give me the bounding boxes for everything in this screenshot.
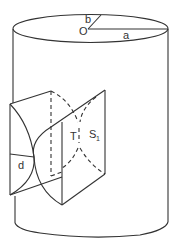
left-arc-upper	[10, 104, 34, 195]
front-arc	[33, 127, 62, 205]
label-T: T	[70, 130, 77, 142]
hidden-bottom-back-edge	[51, 172, 62, 176]
label-O: O	[79, 25, 88, 37]
hidden-lower-arc-left	[62, 148, 78, 168]
depth-d-line	[10, 154, 34, 157]
hidden-upper-arc-right	[80, 97, 96, 122]
prism-top-left-edge	[10, 91, 51, 104]
prism-bottom-left-edge	[10, 177, 62, 195]
label-d: d	[18, 159, 24, 171]
diagram-figure: O b a d T S 1	[0, 0, 178, 252]
plane-bottom-edge	[62, 174, 105, 205]
cylinder-diagram: O b a d T S 1	[0, 0, 178, 252]
label-a: a	[123, 29, 130, 41]
cylinder-bottom-arc	[15, 222, 168, 237]
label-b: b	[85, 13, 91, 25]
hidden-lower-arc-right	[80, 148, 105, 174]
label-S-subscript: 1	[96, 135, 100, 142]
